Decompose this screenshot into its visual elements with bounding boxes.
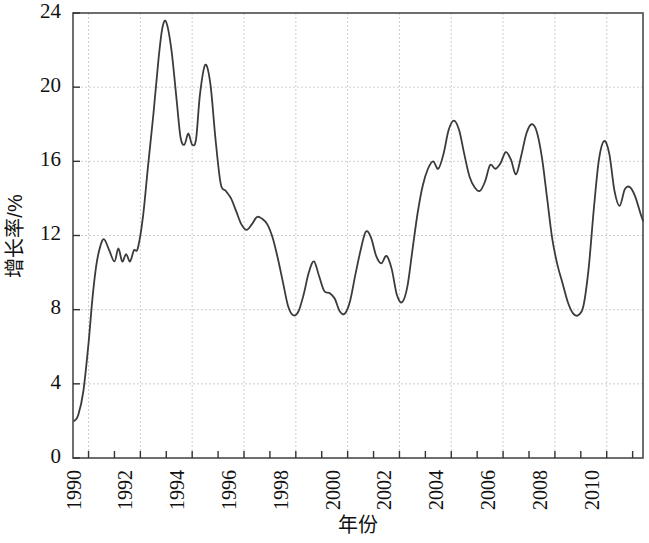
y-tick-label: 8	[51, 295, 62, 319]
x-tick-label: 1994	[166, 470, 188, 510]
y-tick-label: 12	[40, 221, 61, 245]
x-axis-tick-labels: 1990199219941996199820002002200420062008…	[63, 470, 603, 510]
x-tick-label: 1996	[218, 470, 240, 510]
y-tick-label: 20	[40, 73, 61, 97]
x-tick-label: 1998	[270, 470, 292, 510]
y-axis-tick-labels: 04812162024	[40, 0, 62, 468]
y-tick-label: 24	[40, 0, 62, 23]
y-tick-label: 4	[51, 370, 62, 394]
x-tick-label: 2010	[581, 470, 603, 510]
x-tick-label: 1992	[114, 470, 136, 510]
chart-canvas: 04812162024 1990199219941996199820002002…	[0, 0, 649, 543]
y-axis-title: 增长率/%	[4, 194, 26, 278]
x-tick-label: 2008	[529, 470, 551, 510]
data-series-line	[74, 21, 643, 421]
x-tick-label: 2002	[373, 470, 395, 510]
x-axis-title: 年份	[338, 514, 378, 536]
grid-lines-horizontal	[73, 87, 643, 384]
y-axis-ticks	[73, 13, 80, 458]
data-series-group	[74, 21, 643, 421]
x-tick-label: 1990	[63, 470, 85, 510]
x-tick-label: 2000	[322, 470, 344, 510]
x-axis-ticks	[89, 451, 633, 458]
x-tick-label: 2006	[477, 470, 499, 510]
growth-rate-line-chart: 04812162024 1990199219941996199820002002…	[0, 0, 649, 543]
y-tick-label: 0	[51, 444, 62, 468]
x-tick-label: 2004	[425, 470, 447, 510]
y-tick-label: 16	[40, 147, 61, 171]
